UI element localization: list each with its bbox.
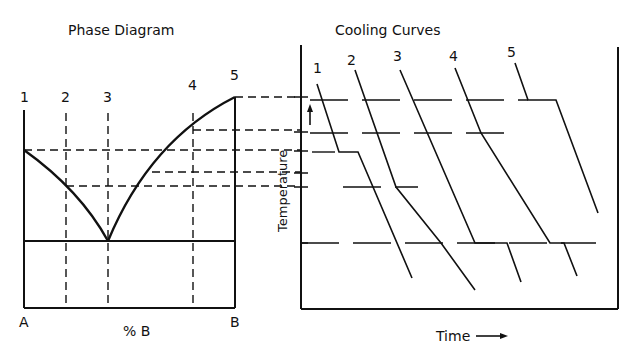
composition-label-5: 5 — [230, 67, 239, 83]
diagram-canvas: Phase Diagram Cooling Curves 1 2 3 4 5 A… — [0, 0, 636, 355]
cooling-guides — [301, 100, 596, 243]
composition-label-3: 3 — [103, 89, 112, 105]
phase-diagram-title: Phase Diagram — [68, 22, 174, 38]
time-axis-label: Time — [435, 328, 470, 344]
cooling-curve-3 — [400, 70, 521, 282]
component-a-label: A — [19, 314, 29, 330]
curve-label-3: 3 — [393, 48, 402, 64]
phase-x-axis-label: % B — [123, 323, 150, 339]
curve-label-5: 5 — [507, 44, 516, 60]
curve-label-2: 2 — [347, 52, 356, 68]
arrowheads — [307, 104, 508, 339]
time-arrow-icon — [500, 333, 508, 339]
cooling-curve-1 — [317, 84, 412, 278]
composition-label-4: 4 — [188, 77, 197, 93]
component-b-label: B — [230, 314, 240, 330]
temperature-arrow-icon — [307, 104, 313, 112]
cooling-curves-title: Cooling Curves — [335, 22, 441, 38]
composition-label-2: 2 — [61, 89, 70, 105]
phase-diagram-frame — [24, 97, 235, 308]
temperature-axis-label: Temperature — [275, 150, 290, 233]
composition-label-1: 1 — [20, 89, 29, 105]
liquidus-right — [108, 97, 235, 241]
cooling-curve-4 — [455, 68, 577, 276]
arrow-icons — [310, 110, 502, 336]
cooling-curve-5 — [515, 63, 598, 213]
cooling-curve-lines — [317, 63, 598, 290]
curve-label-1: 1 — [313, 60, 322, 76]
curve-label-4: 4 — [449, 48, 458, 64]
